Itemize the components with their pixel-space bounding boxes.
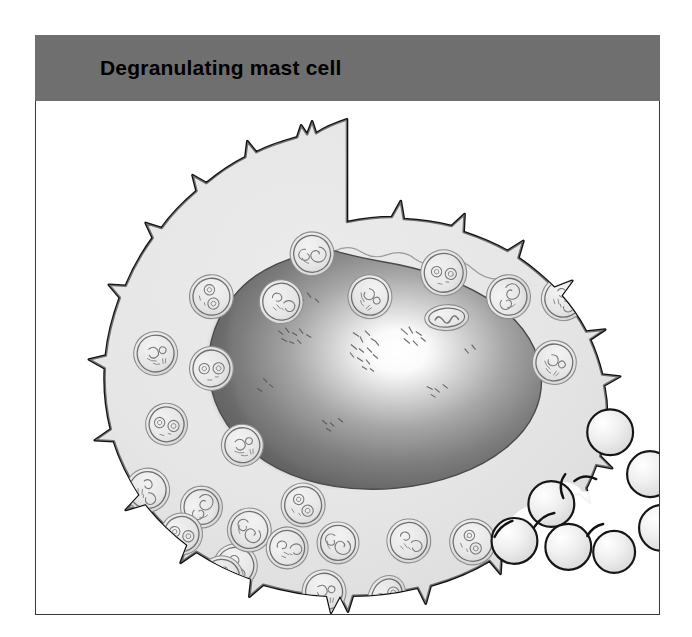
released-granule (639, 505, 659, 551)
released-granule (627, 451, 659, 497)
released-granule (593, 531, 635, 573)
mast-cell-illustration (36, 101, 659, 614)
mast-cell (36, 101, 659, 614)
page-title: Degranulating mast cell (100, 56, 342, 80)
released-granule (528, 481, 574, 527)
figure-header-bar: Degranulating mast cell (35, 35, 660, 101)
released-granule (545, 524, 591, 570)
released-granule (492, 518, 538, 564)
released-granule (587, 409, 633, 455)
illustration-panel (35, 101, 660, 615)
figure-root: Degranulating mast cell (0, 0, 692, 637)
